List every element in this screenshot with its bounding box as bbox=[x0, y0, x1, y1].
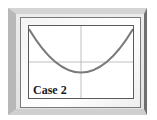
plot-area: Case 2 bbox=[28, 25, 134, 99]
case-label: Case 2 bbox=[33, 84, 67, 96]
